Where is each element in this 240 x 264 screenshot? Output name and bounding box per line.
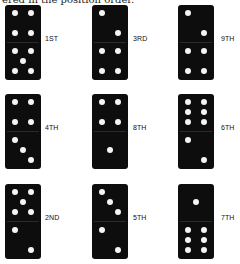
position-label: 3RD xyxy=(133,35,147,42)
pip-icon xyxy=(185,99,191,105)
pip-icon xyxy=(28,99,34,105)
pip-icon xyxy=(20,58,26,64)
pip-icon xyxy=(185,237,191,243)
pip-icon xyxy=(201,237,207,243)
pip-icon xyxy=(107,199,113,205)
position-label: 9TH xyxy=(221,35,235,42)
domino-divider xyxy=(180,131,212,132)
pip-icon xyxy=(28,68,34,74)
pip-icon xyxy=(185,247,191,253)
pip-icon xyxy=(185,10,191,16)
pip-icon xyxy=(99,227,105,233)
domino-8th xyxy=(92,94,128,169)
position-label: 8TH xyxy=(133,124,147,131)
pip-icon xyxy=(28,189,34,195)
pip-icon xyxy=(99,189,105,195)
position-label: 4TH xyxy=(45,124,59,131)
pip-icon xyxy=(193,199,199,205)
pip-icon xyxy=(99,68,105,74)
domino-5th xyxy=(92,184,128,259)
pip-icon xyxy=(20,199,26,205)
domino-divider xyxy=(180,42,212,43)
pip-icon xyxy=(107,147,113,153)
domino-divider xyxy=(7,131,39,132)
pip-icon xyxy=(12,137,18,143)
pip-icon xyxy=(201,227,207,233)
pip-icon xyxy=(99,119,105,125)
pip-icon xyxy=(201,99,207,105)
pip-icon xyxy=(28,209,34,215)
pip-icon xyxy=(185,119,191,125)
pip-icon xyxy=(185,68,191,74)
pip-icon xyxy=(12,68,18,74)
domino-2nd xyxy=(5,184,41,259)
pip-icon xyxy=(12,227,18,233)
pip-icon xyxy=(28,10,34,16)
pip-icon xyxy=(12,10,18,16)
pip-icon xyxy=(185,137,191,143)
pip-icon xyxy=(12,48,18,54)
domino-3rd xyxy=(92,5,128,80)
pip-icon xyxy=(12,119,18,125)
domino-1st xyxy=(5,5,41,80)
pip-icon xyxy=(201,68,207,74)
domino-7th xyxy=(178,184,214,259)
position-label: 7TH xyxy=(221,214,235,221)
pip-icon xyxy=(99,99,105,105)
pip-icon xyxy=(28,247,34,253)
domino-divider xyxy=(94,42,126,43)
position-label: 5TH xyxy=(133,214,147,221)
pip-icon xyxy=(28,157,34,163)
pip-icon xyxy=(28,48,34,54)
pip-icon xyxy=(201,157,207,163)
domino-divider xyxy=(94,131,126,132)
pip-icon xyxy=(12,189,18,195)
pip-icon xyxy=(99,48,105,54)
domino-4th xyxy=(5,94,41,169)
pip-icon xyxy=(115,247,121,253)
domino-divider xyxy=(180,221,212,222)
pip-icon xyxy=(115,119,121,125)
pip-icon xyxy=(99,10,105,16)
pip-icon xyxy=(115,209,121,215)
pip-icon xyxy=(20,147,26,153)
pip-icon xyxy=(28,119,34,125)
pip-icon xyxy=(201,247,207,253)
domino-divider xyxy=(7,42,39,43)
pip-icon xyxy=(201,109,207,115)
pip-icon xyxy=(28,30,34,36)
position-label: 6TH xyxy=(221,124,235,131)
pip-icon xyxy=(201,119,207,125)
pip-icon xyxy=(185,109,191,115)
pip-icon xyxy=(115,48,121,54)
position-label: 2ND xyxy=(45,214,59,221)
pip-icon xyxy=(185,48,191,54)
pip-icon xyxy=(12,30,18,36)
pip-icon xyxy=(12,99,18,105)
domino-6th xyxy=(178,94,214,169)
position-label: 1ST xyxy=(45,35,58,42)
pip-icon xyxy=(115,30,121,36)
pip-icon xyxy=(12,209,18,215)
pip-icon xyxy=(115,99,121,105)
pip-icon xyxy=(115,68,121,74)
domino-divider xyxy=(7,221,39,222)
domino-divider xyxy=(94,221,126,222)
domino-9th xyxy=(178,5,214,80)
pip-icon xyxy=(185,227,191,233)
pip-icon xyxy=(201,48,207,54)
pip-icon xyxy=(201,30,207,36)
